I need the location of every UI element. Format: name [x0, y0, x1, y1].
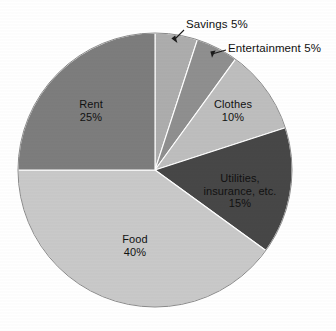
slice-label-utilities: Utilities, insurance, etc. 15% — [192, 172, 288, 210]
slice-label-entertainment: Entertainment 5% — [228, 42, 321, 55]
slice-label-savings: Savings 5% — [186, 18, 248, 31]
pie-slices-group — [18, 33, 292, 307]
slice-label-food: Food 40% — [103, 233, 167, 258]
pie-chart: Rent 25% Food 40% Clothes 10% Utilities,… — [0, 0, 336, 331]
slice-label-clothes: Clothes 10% — [200, 98, 266, 123]
slice-label-rent: Rent 25% — [60, 98, 122, 123]
